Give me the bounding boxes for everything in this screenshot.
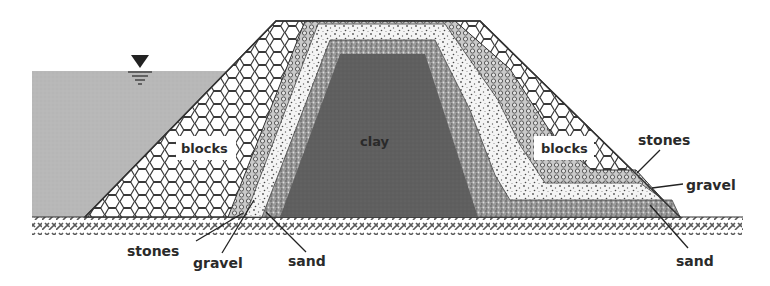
label-blocks-right: blocks <box>541 141 588 156</box>
label-sand-right: sand <box>676 253 714 269</box>
breakwater-diagram: clay blocks blocks stones gravel sand st… <box>0 0 770 286</box>
label-gravel-left: gravel <box>193 255 243 271</box>
label-blocks-left: blocks <box>181 141 228 156</box>
label-gravel-right: gravel <box>686 177 736 193</box>
label-clay: clay <box>360 134 390 149</box>
label-stones-left: stones <box>127 243 179 259</box>
label-sand-left: sand <box>288 253 326 269</box>
label-stones-right: stones <box>638 132 690 148</box>
ground-hatch <box>32 217 743 235</box>
